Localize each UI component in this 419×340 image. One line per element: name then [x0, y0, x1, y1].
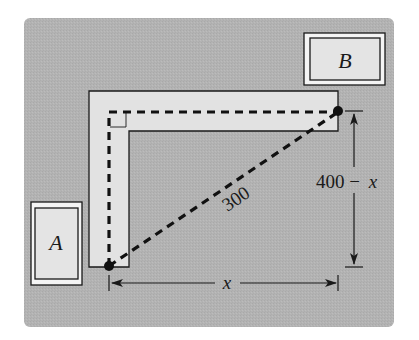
point-b-dot [333, 106, 343, 116]
box-b: B [304, 33, 385, 85]
vertical-dim-number: 400 − [316, 171, 360, 192]
box-b-label: B [338, 48, 351, 73]
diagram-canvas: B A 300 400 − x x [0, 0, 419, 340]
vertical-dim-var: x [368, 171, 378, 192]
point-a-dot [104, 261, 114, 271]
svg-text:400 − x: 400 − x [316, 171, 378, 192]
box-a-label: A [47, 230, 63, 255]
horizontal-dim-label: x [222, 272, 232, 293]
box-a: A [31, 202, 82, 285]
